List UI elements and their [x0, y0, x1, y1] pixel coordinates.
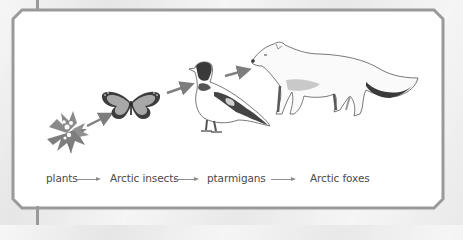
label-arctic-foxes: Arctic foxes [310, 172, 370, 184]
flower-icon [47, 111, 89, 153]
food-chain-illustration [0, 0, 463, 225]
ptarmigan-bird-icon [189, 62, 270, 132]
butterfly-icon [102, 92, 160, 119]
arrow-right-icon [271, 179, 294, 180]
arrow-icon [167, 85, 190, 93]
label-plants: plants [46, 172, 78, 184]
label-ptarmigans: ptarmigans [207, 172, 266, 184]
label-arctic-insects: Arctic insects [110, 172, 179, 184]
arrow-icon [87, 115, 109, 126]
arctic-fox-icon [251, 42, 418, 116]
arrow-right-icon [77, 179, 99, 180]
arrow-icon [225, 70, 247, 76]
arrow-right-icon [174, 179, 197, 180]
